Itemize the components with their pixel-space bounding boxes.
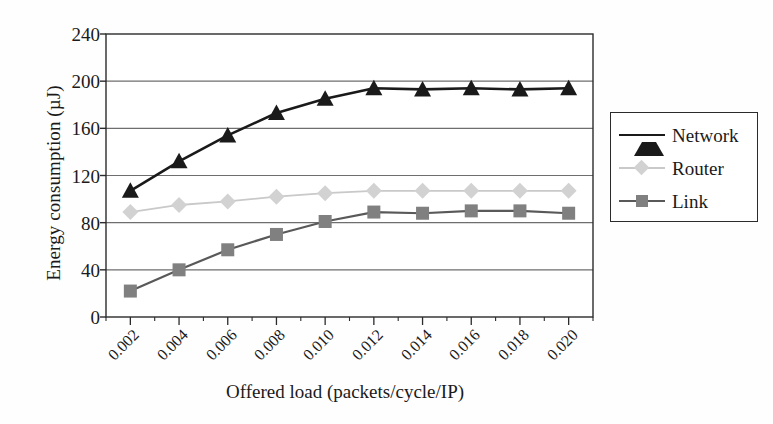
square-marker-icon — [636, 195, 648, 207]
legend-item-network: Network — [619, 125, 738, 145]
legend-swatch-link — [619, 191, 665, 211]
legend-label: Link — [672, 192, 708, 211]
legend-swatch-router — [619, 158, 665, 178]
legend-swatch-network — [619, 125, 665, 145]
x-axis-title: Offered load (packets/cycle/IP) — [100, 381, 590, 403]
legend-item-router: Router — [619, 158, 724, 178]
chart-figure: Energy consumption (µJ) 240 200 160 120 … — [0, 0, 773, 424]
legend: Network Router Link — [610, 112, 758, 222]
triangle-marker-icon — [634, 128, 664, 156]
legend-label: Router — [672, 159, 724, 178]
diamond-marker-icon — [634, 160, 650, 176]
legend-item-link: Link — [619, 191, 708, 211]
legend-label: Network — [672, 126, 738, 145]
